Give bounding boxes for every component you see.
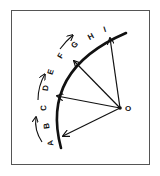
arc-label-i: I [102,25,107,34]
center-point [118,106,122,110]
arc-vector-diagram: O A B C D E F G H I [0,0,160,176]
arc-label-h: H [86,31,96,42]
arc-label-g: G [69,39,80,50]
circular-arc [57,33,126,148]
vector-o-to-b [63,108,120,136]
arc-label-f: F [56,51,66,60]
arc-labels: A B C D E F G H I [39,25,107,147]
arc-label-e: E [46,67,56,75]
arc-label-c: C [39,105,48,111]
direction-arrow-1 [36,117,42,142]
arc-label-a: A [46,139,56,146]
center-label: O [125,104,131,113]
radial-vectors [57,38,120,136]
vector-o-to-i [110,38,120,108]
arc-label-b: B [42,122,52,129]
arc-label-d: D [41,84,51,91]
